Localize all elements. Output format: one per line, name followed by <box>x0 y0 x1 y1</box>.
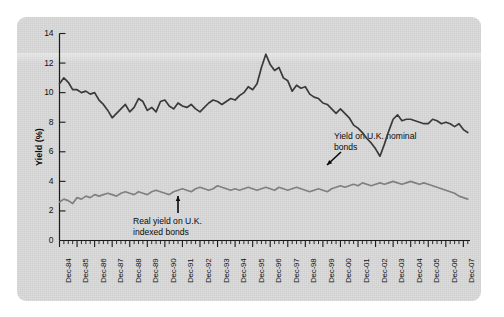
series-line-nominal-bonds <box>60 54 468 156</box>
series-group <box>60 54 468 203</box>
chart-plot-area <box>0 0 504 317</box>
indexed-annotation-arrow <box>176 196 180 213</box>
axes-group <box>60 34 471 248</box>
annotation-arrows <box>176 152 341 213</box>
chart-figure: Yield (%) 02468101214 Dec-84Dec-85Dec-86… <box>0 0 504 317</box>
nominal-annotation-arrow <box>327 152 341 165</box>
series-line-indexed-bonds <box>60 181 468 203</box>
